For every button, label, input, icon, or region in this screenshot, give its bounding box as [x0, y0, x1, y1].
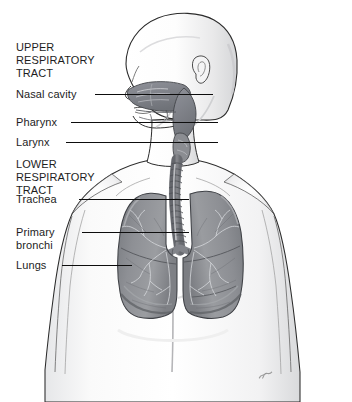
lung-right [183, 191, 243, 318]
heading-upper-respiratory-tract: UPPER RESPIRATORY TRACT [16, 41, 95, 81]
label-larynx: Larynx [16, 136, 50, 149]
leader-line-trachea [79, 199, 189, 200]
leader-line-pharynx [71, 122, 218, 123]
label-primary-bronchi: Primary bronchi [16, 226, 55, 252]
label-nasal-cavity: Nasal cavity [16, 88, 77, 101]
leader-line-lungs [62, 265, 132, 266]
respiratory-system-figure: UPPER RESPIRATORY TRACT Nasal cavity Pha… [0, 0, 352, 402]
label-lungs: Lungs [16, 259, 46, 272]
label-pharynx: Pharynx [16, 116, 57, 129]
leader-line-larynx [66, 142, 218, 143]
leader-line-nasal-cavity [95, 94, 213, 95]
leader-line-primary-bronchi [82, 232, 189, 233]
label-trachea: Trachea [16, 193, 57, 206]
heading-lower-respiratory-tract: LOWER RESPIRATORY TRACT [16, 158, 95, 198]
